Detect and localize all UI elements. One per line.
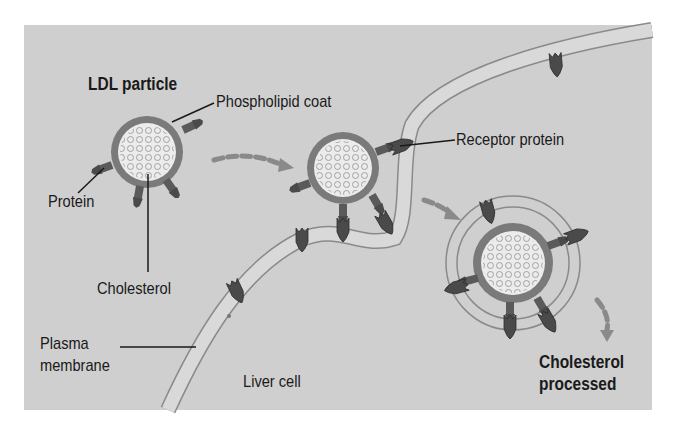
cholesterol-label: Cholesterol: [97, 279, 171, 299]
membrane-dot: [227, 314, 231, 318]
endocytic-vesicle: [443, 196, 590, 339]
cholesterol-processed-label-line2: processed: [539, 374, 616, 394]
receptor-protein-label: Receptor protein: [456, 130, 564, 150]
phospholipid-coat-label: Phospholipid coat: [216, 92, 331, 112]
ldl-particle-label: LDL particle: [88, 74, 177, 94]
liver-cell-label: Liver cell: [243, 372, 301, 392]
plasma-membrane-label-line2: membrane: [40, 356, 110, 376]
plasma-membrane-label-line1: Plasma: [40, 334, 89, 354]
protein-label: Protein: [48, 192, 94, 212]
cholesterol-processed-label-line1: Cholesterol: [539, 352, 624, 372]
